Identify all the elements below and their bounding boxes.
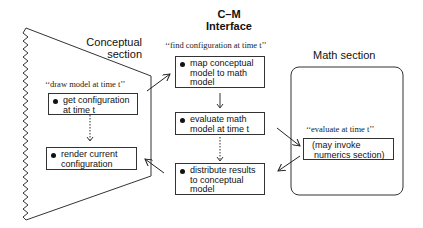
box-line: configuration bbox=[61, 160, 133, 170]
evaluate-quote: ‘‘evaluate at time t’’ bbox=[306, 124, 374, 134]
cm-interface-title-line2: Interface bbox=[196, 20, 262, 32]
box-line: model at time t bbox=[190, 125, 261, 135]
box-line: at time t bbox=[63, 106, 134, 116]
bullet-icon bbox=[53, 99, 58, 104]
cm-interface-header: C–M Interface bbox=[196, 8, 262, 32]
get-configuration-box: get configuration at time t bbox=[48, 93, 138, 115]
render-configuration-box: render current configuration bbox=[46, 147, 137, 170]
draw-model-quote: ‘‘draw model at time t’’ bbox=[45, 79, 125, 89]
box-line: numerics section) bbox=[312, 151, 389, 161]
cm-interface-title-line1: C–M bbox=[196, 8, 262, 20]
may-invoke-numerics-box: (may invoke numerics section) bbox=[303, 138, 394, 160]
bullet-icon bbox=[180, 62, 185, 67]
conceptual-title-line1: Conceptual bbox=[86, 36, 142, 48]
bullet-icon bbox=[180, 118, 185, 123]
math-section-title: Math section bbox=[313, 49, 375, 61]
bullet-icon bbox=[180, 169, 185, 174]
conceptual-section-title: Conceptual section bbox=[86, 36, 142, 60]
bullet-icon bbox=[51, 153, 56, 158]
evaluate-math-box: evaluate math model at time t bbox=[175, 112, 265, 135]
box-line: model bbox=[190, 78, 261, 88]
distribute-results-box: distribute results to conceptual model bbox=[175, 163, 265, 195]
box-line: model bbox=[190, 185, 261, 195]
find-configuration-quote: ‘‘find configuration at time t’’ bbox=[165, 40, 267, 50]
map-conceptual-box: map conceptual model to math model bbox=[175, 56, 265, 88]
conceptual-title-line2: section bbox=[86, 48, 142, 60]
